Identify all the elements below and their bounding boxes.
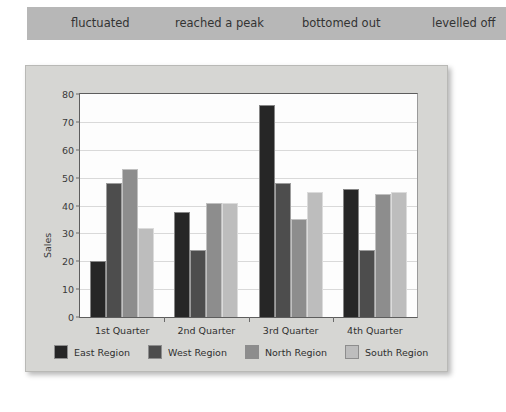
legend-label: West Region xyxy=(168,347,227,358)
bar-west-region-4[interactable] xyxy=(359,250,375,317)
y-tick-label: 0 xyxy=(68,312,74,323)
bar-group xyxy=(249,94,333,317)
legend-swatch-icon xyxy=(148,345,162,359)
legend-swatch-icon xyxy=(345,345,359,359)
y-tick-label: 40 xyxy=(62,200,74,211)
legend-item-east-region[interactable]: East Region xyxy=(54,345,130,359)
chart-legend: East RegionWest RegionNorth RegionSouth … xyxy=(54,345,426,359)
bar-east-region-3[interactable] xyxy=(259,105,275,317)
x-category-label: 3rd Quarter xyxy=(263,325,319,336)
bar-east-region-4[interactable] xyxy=(343,189,359,317)
x-tick-mark xyxy=(249,317,250,322)
plot-area: 01020304050607080 1st Quarter2nd Quarter… xyxy=(79,93,418,318)
x-category-label: 4th Quarter xyxy=(347,325,403,336)
bar-north-region-1[interactable] xyxy=(122,169,138,317)
bar-south-region-3[interactable] xyxy=(307,192,323,317)
x-tick-mark xyxy=(333,317,334,322)
phrase-reached-a-peak: reached a peak xyxy=(175,16,264,30)
x-category-label: 2nd Quarter xyxy=(177,325,235,336)
y-tick-label: 30 xyxy=(62,228,74,239)
bar-north-region-3[interactable] xyxy=(291,219,307,317)
legend-swatch-icon xyxy=(245,345,259,359)
bar-east-region-1[interactable] xyxy=(90,261,106,317)
bar-group xyxy=(164,94,248,317)
phrase-bottomed-out: bottomed out xyxy=(302,16,380,30)
legend-label: North Region xyxy=(265,347,327,358)
legend-label: East Region xyxy=(74,347,130,358)
x-category-label: 1st Quarter xyxy=(95,325,149,336)
bar-group xyxy=(333,94,417,317)
legend-item-north-region[interactable]: North Region xyxy=(245,345,327,359)
phrase-levelled-off: levelled off xyxy=(432,16,496,30)
y-tick-label: 50 xyxy=(62,172,74,183)
y-tick-label: 80 xyxy=(62,89,74,100)
bar-north-region-2[interactable] xyxy=(206,203,222,317)
bar-west-region-2[interactable] xyxy=(190,250,206,317)
y-tick-label: 20 xyxy=(62,256,74,267)
x-tick-mark xyxy=(164,317,165,322)
bar-west-region-1[interactable] xyxy=(106,183,122,317)
phrase-fluctuated: fluctuated xyxy=(71,16,130,30)
legend-label: South Region xyxy=(365,347,428,358)
bar-south-region-2[interactable] xyxy=(222,203,238,317)
bar-south-region-4[interactable] xyxy=(391,192,407,317)
bar-group xyxy=(80,94,164,317)
phrase-bar: fluctuated reached a peak bottomed out l… xyxy=(27,7,506,40)
chart-card: Sales 01020304050607080 1st Quarter2nd Q… xyxy=(25,65,448,372)
y-tick-label: 60 xyxy=(62,144,74,155)
legend-item-west-region[interactable]: West Region xyxy=(148,345,227,359)
legend-swatch-icon xyxy=(54,345,68,359)
bar-east-region-2[interactable] xyxy=(174,212,190,317)
bar-west-region-3[interactable] xyxy=(275,183,291,317)
y-tick-label: 10 xyxy=(62,284,74,295)
bar-north-region-4[interactable] xyxy=(375,194,391,317)
legend-item-south-region[interactable]: South Region xyxy=(345,345,428,359)
bar-south-region-1[interactable] xyxy=(138,228,154,317)
y-tick-label: 70 xyxy=(62,116,74,127)
y-axis-title: Sales xyxy=(42,233,53,258)
